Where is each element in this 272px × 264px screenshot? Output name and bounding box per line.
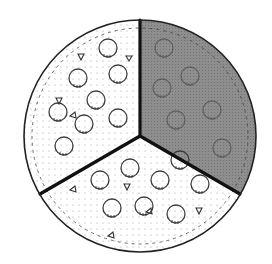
fraction-circle-diagram — [0, 0, 272, 264]
